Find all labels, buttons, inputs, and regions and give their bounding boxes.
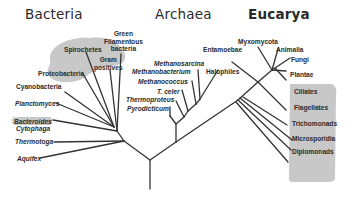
label-spirochetes: Spirochetes xyxy=(64,46,102,54)
label-t-celer: T. celer xyxy=(157,88,180,96)
label-myxomycota: Myxomycota xyxy=(238,38,278,46)
label-ciliates: Ciliates xyxy=(294,88,317,96)
label-methanosarcina: Methanosarcina xyxy=(154,60,204,68)
label-flagellates: Flagellates xyxy=(294,104,328,112)
label-planctomyces: Planctomyces xyxy=(15,100,59,108)
label-fungi: Fungi xyxy=(291,56,309,64)
eucarya-highlight-blob xyxy=(289,84,336,182)
title-bacteria: Bacteria xyxy=(25,6,83,22)
label-methanobacterium: Methanobacterium xyxy=(132,68,191,76)
label-entamoebae: Entamoebae xyxy=(203,46,242,54)
label-proteobacteria: Proteobacteria xyxy=(38,70,84,78)
label-cyanobacteria: Cyanobacteria xyxy=(16,83,61,91)
label-trichomonads: Trichomonads xyxy=(292,120,337,128)
label-thermoproteus: Thermoproteus xyxy=(126,96,174,104)
label-line: Gram xyxy=(94,56,123,64)
label-line: positives xyxy=(94,64,123,72)
label-gram-positives: Gram positives xyxy=(94,56,123,71)
label-pyrodicticum: Pyrodicticum xyxy=(127,105,169,113)
phylogenetic-tree-diagram: Bacteria Archaea Eucarya Green Filamento… xyxy=(0,0,349,201)
title-archaea: Archaea xyxy=(155,6,212,22)
title-eucarya: Eucarya xyxy=(248,6,310,22)
label-animalia: Animalia xyxy=(276,46,303,54)
label-diplomonads: Diplomonads xyxy=(292,148,334,156)
label-thermotoga: Thermotoga xyxy=(15,138,53,146)
label-methanococcus: Methanococcus xyxy=(138,78,188,86)
label-cytophaga: Cytophaga xyxy=(16,125,50,133)
label-microsporidia: Microsporidia xyxy=(292,135,335,143)
label-aquifex: Aquifex xyxy=(17,155,41,163)
label-halophiles: Halophiles xyxy=(206,68,239,76)
label-plantae: Plantae xyxy=(290,71,313,79)
label-line: bacteria xyxy=(104,45,143,53)
label-green-filamentous-bacteria: Green Filamentous bacteria xyxy=(104,30,143,53)
label-line: Green xyxy=(104,30,143,38)
label-line: Filamentous xyxy=(104,38,143,46)
